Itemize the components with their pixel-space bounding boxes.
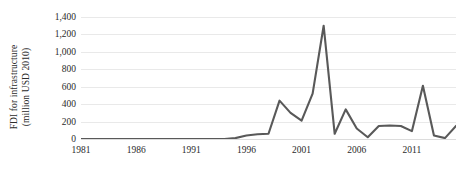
x-axis-tick-label: 1991	[161, 145, 221, 156]
fdi-infrastructure-line-chart: FDI for infrastructure (million USD 2010…	[0, 0, 466, 174]
x-axis-tick-labels: 1981198619911996200120062011	[0, 0, 466, 174]
x-axis-tick-label: 2006	[327, 145, 387, 156]
x-axis-tick-label: 1986	[106, 145, 166, 156]
x-axis-tick-label: 1981	[51, 145, 111, 156]
x-axis-tick-label: 2011	[382, 145, 442, 156]
x-axis-tick-label: 1996	[216, 145, 276, 156]
x-axis-tick-label: 2001	[272, 145, 332, 156]
